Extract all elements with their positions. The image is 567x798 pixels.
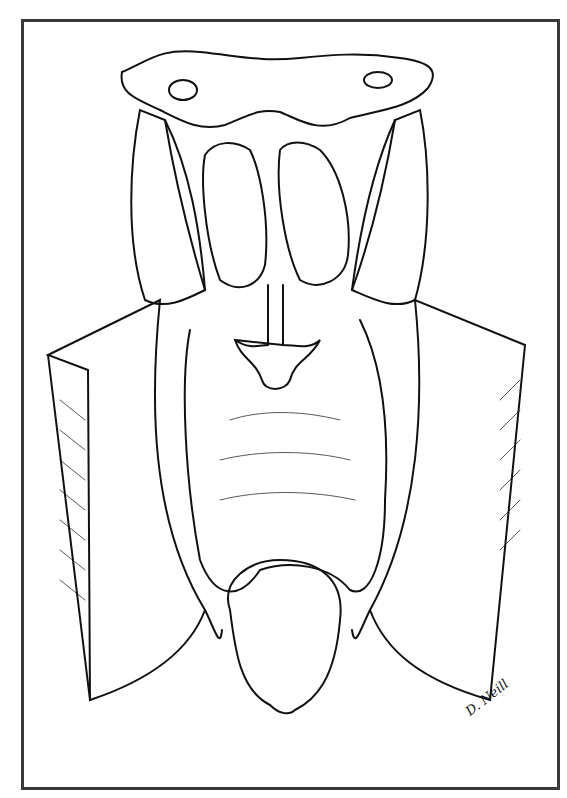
- anatomical-illustration: [0, 0, 567, 798]
